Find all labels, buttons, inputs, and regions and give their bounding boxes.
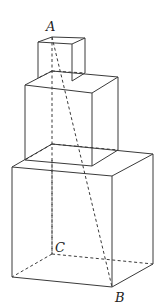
label-b: B bbox=[114, 290, 125, 305]
label-c: C bbox=[55, 240, 65, 255]
label-a: A bbox=[45, 19, 55, 34]
stacked-cubes-diagram: A C B bbox=[0, 0, 163, 307]
top-cube bbox=[38, 37, 85, 81]
